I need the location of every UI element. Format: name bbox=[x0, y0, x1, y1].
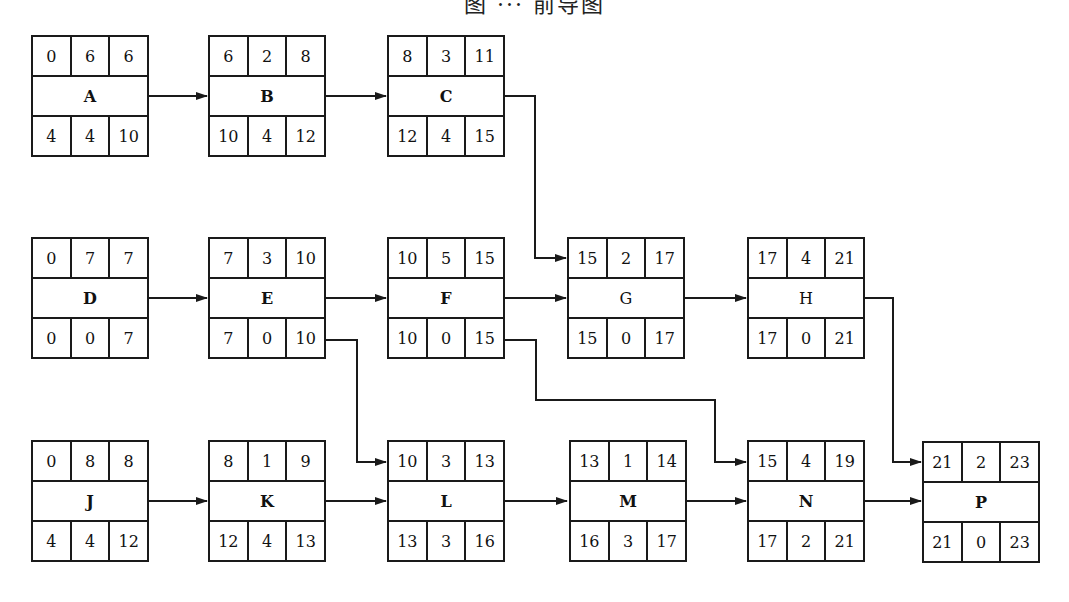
activity-node-E: 7310 E 7010 bbox=[208, 237, 326, 359]
duration-value: 1 bbox=[608, 442, 647, 480]
tf-value: 4 bbox=[247, 117, 286, 155]
tf-value: 3 bbox=[608, 522, 647, 560]
lf-value: 15 bbox=[464, 319, 503, 357]
lf-value: 12 bbox=[108, 522, 147, 560]
ls-value: 10 bbox=[210, 117, 247, 155]
activity-node-D: 077 D 007 bbox=[31, 237, 149, 359]
activity-label: L bbox=[440, 492, 451, 511]
activity-label: M bbox=[619, 492, 637, 511]
activity-node-J: 088 J 4412 bbox=[31, 440, 149, 562]
duration-value: 7 bbox=[70, 239, 109, 277]
activity-node-M: 13114 M 16317 bbox=[569, 440, 687, 562]
ef-value: 8 bbox=[108, 442, 147, 480]
ef-value: 6 bbox=[108, 37, 147, 75]
ls-value: 12 bbox=[389, 117, 426, 155]
es-value: 8 bbox=[210, 442, 247, 480]
tf-value: 4 bbox=[247, 522, 286, 560]
ls-value: 13 bbox=[389, 522, 426, 560]
activity-node-G: 15217 G 15017 bbox=[567, 237, 685, 359]
lf-value: 7 bbox=[108, 319, 147, 357]
ef-value: 14 bbox=[646, 442, 685, 480]
activity-label: H bbox=[799, 289, 813, 308]
activity-label: B bbox=[260, 87, 274, 106]
tf-value: 4 bbox=[70, 117, 109, 155]
activity-label: C bbox=[440, 87, 453, 106]
lf-value: 10 bbox=[285, 319, 324, 357]
es-value: 21 bbox=[924, 443, 961, 481]
ef-value: 21 bbox=[824, 239, 863, 277]
activity-label: D bbox=[83, 289, 97, 308]
duration-value: 6 bbox=[70, 37, 109, 75]
tf-value: 2 bbox=[786, 522, 825, 560]
lf-value: 16 bbox=[464, 522, 503, 560]
lf-value: 21 bbox=[824, 319, 863, 357]
duration-value: 8 bbox=[70, 442, 109, 480]
lf-value: 17 bbox=[646, 522, 685, 560]
ef-value: 8 bbox=[285, 37, 324, 75]
ls-value: 0 bbox=[33, 319, 70, 357]
ls-value: 12 bbox=[210, 522, 247, 560]
ls-value: 7 bbox=[210, 319, 247, 357]
activity-node-B: 628 B 10412 bbox=[208, 35, 326, 157]
duration-value: 3 bbox=[426, 37, 465, 75]
edge-H-P bbox=[864, 298, 921, 462]
es-value: 10 bbox=[389, 442, 426, 480]
ef-value: 10 bbox=[285, 239, 324, 277]
connector-layer bbox=[0, 0, 1069, 602]
es-value: 13 bbox=[571, 442, 608, 480]
ls-value: 21 bbox=[924, 523, 961, 561]
ef-value: 11 bbox=[464, 37, 503, 75]
es-value: 15 bbox=[569, 239, 606, 277]
edge-E-L bbox=[326, 340, 386, 462]
lf-value: 23 bbox=[999, 523, 1038, 561]
activity-node-P: 21223 P 21023 bbox=[922, 441, 1040, 563]
es-value: 10 bbox=[389, 239, 426, 277]
activity-label: P bbox=[975, 493, 987, 512]
tf-value: 4 bbox=[70, 522, 109, 560]
ef-value: 17 bbox=[644, 239, 683, 277]
tf-value: 0 bbox=[247, 319, 286, 357]
tf-value: 3 bbox=[426, 522, 465, 560]
lf-value: 17 bbox=[644, 319, 683, 357]
tf-value: 4 bbox=[426, 117, 465, 155]
es-value: 8 bbox=[389, 37, 426, 75]
ls-value: 17 bbox=[749, 522, 786, 560]
ef-value: 15 bbox=[464, 239, 503, 277]
activity-node-K: 819 K 12413 bbox=[208, 440, 326, 562]
lf-value: 21 bbox=[824, 522, 863, 560]
es-value: 0 bbox=[33, 37, 70, 75]
duration-value: 2 bbox=[961, 443, 1000, 481]
edge-C-G bbox=[505, 96, 566, 258]
ef-value: 13 bbox=[464, 442, 503, 480]
duration-value: 5 bbox=[426, 239, 465, 277]
ls-value: 17 bbox=[749, 319, 786, 357]
lf-value: 15 bbox=[464, 117, 503, 155]
es-value: 0 bbox=[33, 239, 70, 277]
ls-value: 16 bbox=[571, 522, 608, 560]
activity-node-L: 10313 L 13316 bbox=[387, 440, 505, 562]
tf-value: 0 bbox=[786, 319, 825, 357]
activity-node-F: 10515 F 10015 bbox=[387, 237, 505, 359]
activity-label: J bbox=[86, 492, 94, 511]
activity-label: N bbox=[799, 492, 814, 511]
es-value: 7 bbox=[210, 239, 247, 277]
duration-value: 2 bbox=[606, 239, 645, 277]
lf-value: 10 bbox=[108, 117, 147, 155]
activity-label: A bbox=[84, 87, 96, 106]
activity-node-H: 17421 H 17021 bbox=[747, 237, 865, 359]
ef-value: 7 bbox=[108, 239, 147, 277]
ls-value: 10 bbox=[389, 319, 426, 357]
es-value: 17 bbox=[749, 239, 786, 277]
lf-value: 13 bbox=[285, 522, 324, 560]
activity-label: F bbox=[440, 289, 451, 308]
activity-node-A: 066 A 4410 bbox=[31, 35, 149, 157]
duration-value: 2 bbox=[247, 37, 286, 75]
activity-label: E bbox=[261, 289, 273, 308]
es-value: 15 bbox=[749, 442, 786, 480]
activity-node-C: 8311 C 12415 bbox=[387, 35, 505, 157]
duration-value: 4 bbox=[786, 239, 825, 277]
duration-value: 4 bbox=[786, 442, 825, 480]
duration-value: 1 bbox=[247, 442, 286, 480]
ls-value: 15 bbox=[569, 319, 606, 357]
ef-value: 9 bbox=[285, 442, 324, 480]
